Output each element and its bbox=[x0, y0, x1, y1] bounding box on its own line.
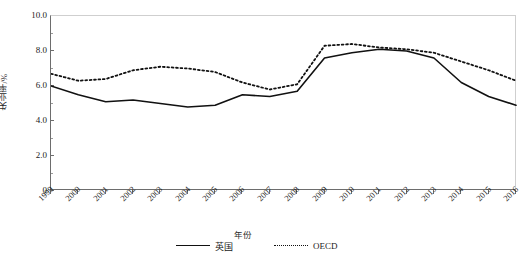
plot-area bbox=[50, 15, 516, 190]
legend-entry-uk: 英国 bbox=[176, 239, 233, 253]
legend-entry-oecd: OECD bbox=[274, 239, 338, 253]
legend-swatch-solid-icon bbox=[176, 241, 210, 251]
series-canvas bbox=[51, 16, 517, 191]
y-tick-label: 10.0 bbox=[17, 10, 47, 20]
series-line-oecd bbox=[51, 44, 516, 90]
y-axis-tick-labels: 02.04.06.08.010.0 bbox=[14, 0, 47, 259]
y-tick-label: 8.0 bbox=[17, 45, 47, 55]
legend-swatch-dotted-icon bbox=[274, 241, 308, 251]
chart-legend: 英国 OECD bbox=[176, 239, 376, 253]
series-line-uk bbox=[51, 49, 516, 107]
y-axis-title: 失业率/% bbox=[0, 74, 14, 110]
y-tick-label: 4.0 bbox=[17, 115, 47, 125]
y-tick-label: 2.0 bbox=[17, 150, 47, 160]
chart-figure: 失业率/% 02.04.06.08.010.0 1999200020012002… bbox=[0, 0, 529, 259]
y-tick-label: 6.0 bbox=[17, 80, 47, 90]
legend-label-oecd: OECD bbox=[313, 241, 338, 251]
legend-label-uk: 英国 bbox=[215, 240, 233, 253]
